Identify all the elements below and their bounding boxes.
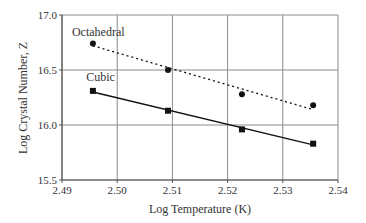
line-chart: 2.492.502.512.522.532.54 15.516.016.517.… [0,0,366,223]
x-axis-ticks: 2.492.502.512.522.532.54 [52,180,348,196]
x-tick-label: 2.50 [108,184,128,196]
x-tick-label: 2.51 [163,184,182,196]
data-point-circle [239,91,245,97]
y-tick-label: 17.0 [38,9,58,21]
data-point-square [239,126,245,132]
y-tick-label: 16.0 [38,119,58,131]
series-label: Octahedral [72,25,125,39]
x-axis-label: Log Temperature (K) [149,202,251,216]
y-tick-label: 15.5 [38,174,58,186]
grid-lines [62,15,338,180]
data-point-circle [165,67,171,73]
data-point-square [90,88,96,94]
y-axis-ticks: 15.516.016.517.0 [38,9,62,186]
data-point-square [165,108,171,114]
series-cubic [90,88,316,147]
x-tick-label: 2.54 [328,184,348,196]
y-tick-label: 16.5 [38,64,58,76]
data-point-circle [310,102,316,108]
x-tick-label: 2.52 [218,184,237,196]
data-series [90,41,316,147]
series-label: Cubic [86,70,115,84]
y-axis-label: Log Crystal Number, Z [16,42,30,154]
chart-container: 2.492.502.512.522.532.54 15.516.016.517.… [0,0,366,223]
data-point-circle [90,41,96,47]
x-tick-label: 2.53 [273,184,293,196]
data-point-square [310,141,316,147]
axes [62,15,338,180]
trend-line [93,92,313,145]
